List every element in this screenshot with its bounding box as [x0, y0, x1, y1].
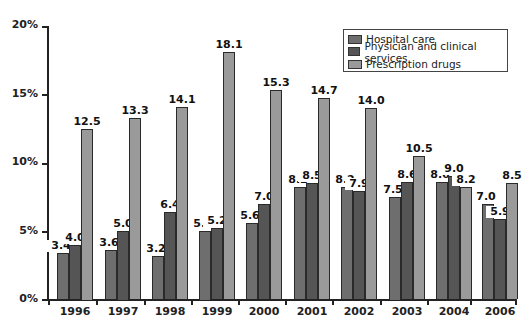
- bar-hospital-care: [152, 256, 164, 300]
- bar-physician-clinical: [353, 191, 365, 299]
- value-label: 18.1: [215, 39, 243, 51]
- bar-prescription-drugs: [270, 90, 282, 299]
- bar-physician-clinical: [401, 182, 413, 300]
- bar-hospital-care: [294, 187, 306, 299]
- value-label: 12.5: [73, 116, 101, 128]
- bar-hospital-care: [105, 250, 117, 299]
- value-label: 13.3: [121, 105, 149, 117]
- value-label: 7.0: [472, 191, 500, 203]
- bar-prescription-drugs: [81, 129, 93, 300]
- x-tick-label: 2003: [385, 305, 429, 318]
- bar-prescription-drugs: [506, 183, 518, 299]
- y-axis-tick: [42, 231, 48, 233]
- bar-hospital-care: [246, 223, 258, 300]
- bar-prescription-drugs: [460, 187, 472, 299]
- bar-physician-clinical: [164, 212, 176, 300]
- bar-prescription-drugs: [176, 107, 188, 300]
- bar-physician-clinical: [258, 204, 270, 300]
- value-label: 15.3: [262, 77, 290, 89]
- bar-physician-clinical: [306, 183, 318, 299]
- value-label: 14.7: [310, 85, 338, 97]
- x-axis-tick: [48, 299, 50, 305]
- value-label: 8.2: [452, 174, 480, 186]
- bar-physician-clinical: [69, 245, 81, 300]
- bar-physician-clinical: [448, 176, 460, 299]
- y-axis-tick: [42, 163, 48, 165]
- x-tick-label: 2000: [242, 305, 286, 318]
- x-tick-label: 1996: [53, 305, 97, 318]
- y-tick-label: 20%: [2, 18, 38, 31]
- bar-hospital-care: [482, 204, 494, 300]
- bar-prescription-drugs: [318, 98, 330, 299]
- legend-swatch-prescription-drugs: [348, 60, 362, 69]
- x-tick-label: 2006: [478, 305, 522, 318]
- bar-hospital-care: [436, 182, 448, 300]
- value-label: 14.0: [357, 95, 385, 107]
- value-label: 8.5: [498, 170, 526, 182]
- legend: Hospital care Physician and clinical ser…: [343, 29, 508, 72]
- bar-prescription-drugs: [223, 52, 235, 300]
- value-label: 10.5: [405, 143, 433, 155]
- bar-prescription-drugs: [413, 156, 425, 300]
- legend-swatch-physician-clinical: [348, 47, 360, 56]
- x-tick-label: 2001: [290, 305, 334, 318]
- bar-prescription-drugs: [365, 108, 377, 299]
- legend-item-physician-clinical: Physician and clinical services: [348, 46, 503, 59]
- value-label: 14.1: [168, 94, 196, 106]
- x-tick-label: 1999: [195, 305, 239, 318]
- x-tick-label: 2002: [337, 305, 381, 318]
- y-tick-label: 0%: [2, 292, 38, 305]
- x-tick-label: 2004: [432, 305, 476, 318]
- y-axis-tick: [42, 26, 48, 28]
- x-tick-label: 1998: [148, 305, 192, 318]
- legend-label: Prescription drugs: [366, 58, 461, 70]
- x-tick-label: 1997: [101, 305, 145, 318]
- bar-chart: 20% 15% 10% 5% 0% 3.44.012.53.65.013.33.…: [0, 0, 531, 325]
- y-axis-tick: [42, 94, 48, 96]
- bar-hospital-care: [341, 187, 353, 299]
- bar-hospital-care: [57, 253, 69, 299]
- legend-swatch-hospital-care: [348, 35, 362, 44]
- bar-hospital-care: [199, 231, 211, 299]
- bar-physician-clinical: [117, 231, 129, 299]
- y-tick-label: 15%: [2, 87, 38, 100]
- y-tick-label: 5%: [2, 224, 38, 237]
- bar-prescription-drugs: [129, 118, 141, 300]
- bar-physician-clinical: [211, 228, 223, 299]
- bar-hospital-care: [389, 197, 401, 300]
- y-tick-label: 10%: [2, 155, 38, 168]
- bar-physician-clinical: [494, 219, 506, 300]
